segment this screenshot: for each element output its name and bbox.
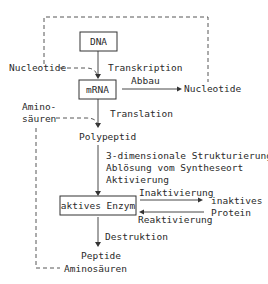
mrna-node: mRNA [79, 80, 116, 99]
arrowhead-icon [95, 191, 101, 196]
aktives-enzym-label: aktives Enzym [61, 200, 136, 211]
nucleotide-output-label: Nucleotide [184, 83, 241, 94]
arrowhead-icon [95, 242, 101, 247]
transkription-label: Transkription [108, 62, 182, 73]
arrowhead-icon [95, 123, 101, 128]
peptide-label: Peptide [81, 250, 121, 261]
nucleotide-input-label: Nucleotide [9, 62, 66, 73]
mrna-label: mRNA [86, 84, 109, 95]
aktives-enzym-node: aktives Enzym [60, 196, 136, 215]
abbau-label: Abbau [131, 75, 160, 86]
amino-input-label-line2: säuren [22, 113, 56, 124]
inaktivierung-label: Inaktivierung [139, 187, 213, 198]
amino-input-label-line1: Amino- [22, 101, 56, 112]
inaktives-protein-line1: inaktives [211, 195, 262, 206]
inaktives-protein-line2: Protein [211, 207, 251, 218]
arrowhead-icon [198, 198, 203, 203]
step-strukturierung: 3-dimensionale Strukturierung [106, 150, 268, 161]
step-aktivierung: Aktivierung [106, 174, 169, 185]
arrowhead-icon [95, 74, 101, 79]
arrowhead-icon [177, 87, 182, 92]
polypeptid-label: Polypeptid [79, 131, 136, 142]
amino-input-connector [56, 118, 98, 125]
amino-recycle-loop [36, 128, 60, 268]
dna-node: DNA [80, 32, 117, 51]
destruktion-label: Destruktion [105, 231, 168, 242]
flow-diagram: DNA Transkription Nucleotide mRNA Abbau … [0, 0, 268, 284]
step-abloesung: Ablösung vom Syntheseort [106, 162, 243, 173]
translation-label: Translation [110, 108, 173, 119]
aminosaeuren-output-label: Aminosäuren [64, 263, 127, 274]
dna-label: DNA [90, 36, 107, 47]
reaktivierung-label: Reaktivierung [138, 214, 212, 225]
